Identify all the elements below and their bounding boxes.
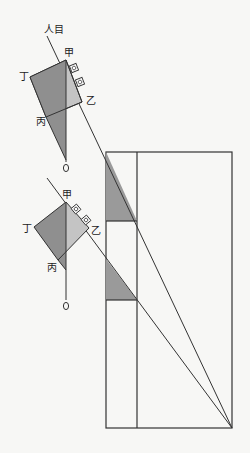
sight-vane-icon	[75, 77, 84, 86]
lower-instrument	[34, 202, 91, 310]
sight-vane-icon	[69, 63, 78, 72]
plumb-bob-icon	[63, 164, 68, 171]
lower-label-yi: 乙	[91, 225, 101, 236]
target-rectangle	[106, 152, 232, 428]
upper-label-yi: 乙	[86, 95, 96, 106]
eye-label: 人目	[44, 24, 64, 35]
upper-label-jia: 甲	[64, 47, 74, 58]
lower-label-bing: 丙	[47, 262, 57, 273]
upper-label-ding: 丁	[19, 71, 29, 82]
lower-label-jia: 甲	[62, 189, 72, 200]
surveying-diagram: 人目 甲 乙 丙 丁 甲 乙 丙 丁	[0, 0, 250, 453]
plumb-bob-icon	[63, 302, 68, 309]
lower-label-ding: 丁	[22, 223, 32, 234]
upper-label-bing: 丙	[36, 116, 46, 127]
upper-shaded-triangle	[106, 152, 137, 221]
